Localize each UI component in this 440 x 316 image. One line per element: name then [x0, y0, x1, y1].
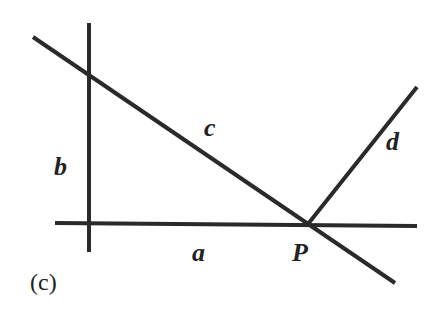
- geometry-diagram: b c d a P (c): [0, 0, 440, 316]
- label-c: c: [204, 113, 216, 142]
- label-b: b: [54, 152, 67, 181]
- figure-caption: (c): [30, 269, 57, 295]
- line-a: [55, 223, 417, 226]
- label-p: P: [291, 238, 309, 267]
- label-a: a: [192, 238, 205, 267]
- label-d: d: [386, 127, 400, 156]
- line-d: [308, 87, 417, 224]
